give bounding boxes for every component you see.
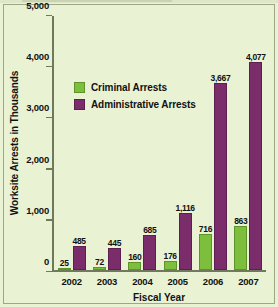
- plot-area: 01,0002,0003,0004,0005,000 2548572445160…: [52, 14, 268, 272]
- bar-value-label: 160: [128, 252, 141, 262]
- x-axis-tick-label-2006: 2006: [195, 276, 230, 287]
- bar-criminal-2004: 160: [128, 262, 141, 270]
- bar-group-2007: 8634,077: [231, 14, 266, 270]
- bar-value-label: 685: [143, 225, 156, 235]
- y-axis-tick-label: 4,000: [26, 51, 49, 62]
- bar-criminal-2006: 716: [199, 234, 212, 271]
- chart-legend: Criminal Arrests Administrative Arrests: [74, 82, 196, 116]
- legend-swatch-icon-administrative: [74, 99, 85, 110]
- legend-item-administrative-arrests: Administrative Arrests: [74, 99, 196, 110]
- y-axis-tick-mark: [46, 15, 52, 16]
- bar-value-label: 176: [163, 251, 176, 261]
- x-axis-line: [52, 270, 266, 272]
- x-axis-ticks: 200220032004200520062007: [54, 276, 266, 287]
- x-axis-tick-label-2007: 2007: [231, 276, 266, 287]
- bar-administrative-2002: 485: [73, 246, 86, 271]
- bar-value-label: 716: [199, 224, 212, 234]
- legend-item-criminal-arrests: Criminal Arrests: [74, 82, 196, 93]
- bar-group-2003: 72445: [89, 14, 124, 270]
- legend-swatch-icon-criminal: [74, 82, 85, 93]
- bar-value-label: 3,667: [211, 73, 231, 83]
- bar-criminal-2005: 176: [164, 261, 177, 270]
- x-axis-tick-label-2002: 2002: [54, 276, 89, 287]
- bar-value-label: 25: [60, 258, 69, 268]
- bar-criminal-2002: 25: [58, 268, 71, 270]
- bar-administrative-2004: 685: [143, 235, 156, 270]
- y-axis-tick-mark: [46, 117, 52, 118]
- bar-value-label: 72: [95, 257, 104, 267]
- bar-value-label: 863: [234, 216, 247, 226]
- y-axis-tick-mark: [46, 219, 52, 220]
- x-axis-label: Fiscal Year: [52, 292, 266, 303]
- bar-group-2005: 1761,116: [160, 14, 195, 270]
- legend-label-criminal: Criminal Arrests: [91, 82, 167, 93]
- bar-groups: 25485724451606851761,1167163,6678634,077: [54, 14, 266, 270]
- bar-group-2004: 160685: [125, 14, 160, 270]
- y-axis-tick-mark: [46, 271, 52, 272]
- bar-value-label: 445: [108, 238, 121, 248]
- bar-administrative-2005: 1,116: [179, 213, 192, 270]
- bar-value-label: 485: [73, 236, 86, 246]
- x-axis-tick-label-2003: 2003: [89, 276, 124, 287]
- x-axis-tick-label-2004: 2004: [125, 276, 160, 287]
- y-axis-label: Worksite Arrests in Thousands: [9, 71, 20, 215]
- bar-value-label: 4,077: [246, 52, 266, 62]
- y-axis-label-holder: Worksite Arrests in Thousands: [8, 14, 24, 272]
- bar-value-label: 1,116: [175, 203, 194, 213]
- bar-group-2006: 7163,667: [195, 14, 230, 270]
- bar-criminal-2003: 72: [93, 267, 106, 271]
- bar-administrative-2006: 3,667: [214, 83, 227, 271]
- y-axis-tick-mark: [46, 66, 52, 67]
- y-axis-tick-label: 2,000: [26, 153, 49, 164]
- y-axis-tick-label: 0: [44, 256, 49, 267]
- y-axis-tick-label: 1,000: [26, 204, 49, 215]
- y-axis-tick-mark: [46, 168, 52, 169]
- bar-criminal-2007: 863: [234, 226, 247, 270]
- y-axis-tick-label: 5,000: [26, 0, 49, 11]
- bar-administrative-2007: 4,077: [249, 62, 262, 271]
- y-axis-tick-label: 3,000: [26, 102, 49, 113]
- x-axis-tick-label-2005: 2005: [160, 276, 195, 287]
- legend-label-administrative: Administrative Arrests: [91, 99, 196, 110]
- chart-screenshot: Worksite Arrests in Thousands 01,0002,00…: [0, 0, 278, 307]
- bar-group-2002: 25485: [54, 14, 89, 270]
- bar-administrative-2003: 445: [108, 248, 121, 271]
